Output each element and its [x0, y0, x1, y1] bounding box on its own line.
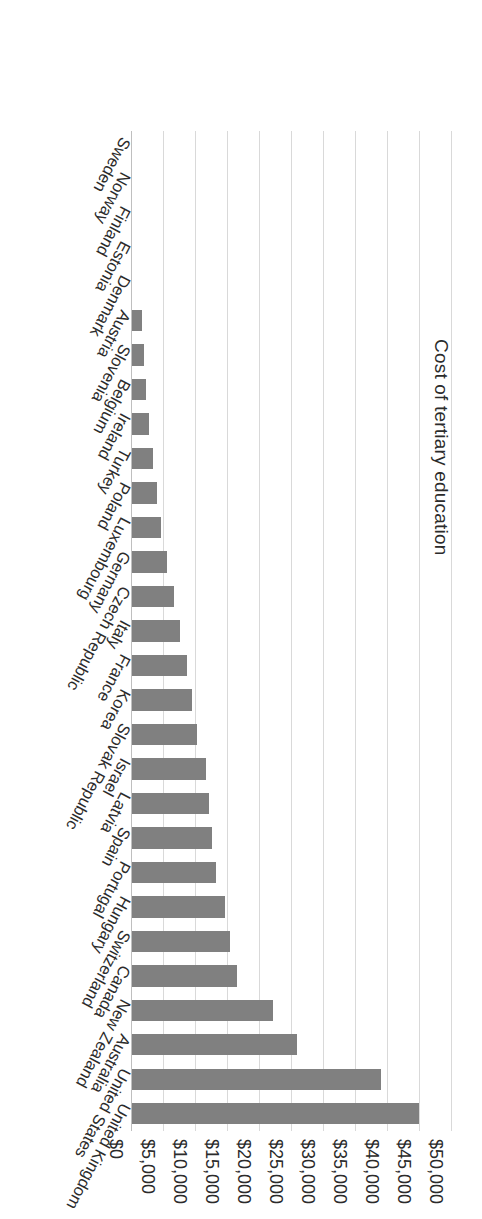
bar[interactable]	[132, 344, 144, 365]
bar-row[interactable]	[132, 344, 452, 365]
bar-row[interactable]	[132, 517, 452, 538]
value-axis-tick-label: $30,000	[297, 1139, 318, 1204]
bar-row[interactable]	[132, 551, 452, 572]
bar[interactable]	[132, 655, 187, 676]
bar-row[interactable]	[132, 862, 452, 883]
value-axis-tick-label: $50,000	[425, 1139, 446, 1204]
bar-row[interactable]	[132, 1103, 452, 1124]
bar-row[interactable]	[132, 620, 452, 641]
bar[interactable]	[132, 310, 142, 331]
bar[interactable]	[132, 862, 216, 883]
bar-row[interactable]	[132, 276, 452, 297]
bar-row[interactable]	[132, 758, 452, 779]
bar-row[interactable]	[132, 965, 452, 986]
bar[interactable]	[132, 965, 237, 986]
value-axis-tick-label: $25,000	[265, 1139, 286, 1204]
bar-row[interactable]	[132, 448, 452, 469]
bar[interactable]	[132, 517, 161, 538]
value-axis-tick-label: $45,000	[393, 1139, 414, 1204]
bar[interactable]	[132, 896, 225, 917]
bar[interactable]	[132, 586, 174, 607]
bar-row[interactable]	[132, 1000, 452, 1021]
bar-row[interactable]	[132, 827, 452, 848]
bar[interactable]	[132, 1103, 419, 1124]
bar-row[interactable]	[132, 586, 452, 607]
bar-chart-figure: Cost of tertiary education $0$5,000$10,0…	[0, 0, 482, 1219]
plot-area	[132, 131, 452, 1131]
bar-row[interactable]	[132, 482, 452, 503]
bar[interactable]	[132, 758, 206, 779]
bar-row[interactable]	[132, 241, 452, 262]
bar[interactable]	[132, 793, 209, 814]
bar[interactable]	[132, 931, 230, 952]
bar[interactable]	[132, 689, 192, 710]
bar-row[interactable]	[132, 172, 452, 193]
value-axis-tick-label: $35,000	[329, 1139, 350, 1204]
bar-row[interactable]	[132, 413, 452, 434]
value-axis-tick-label: $15,000	[201, 1139, 222, 1204]
bar-row[interactable]	[132, 793, 452, 814]
value-axis-tick-label: $5,000	[137, 1139, 158, 1194]
value-axis-tick-label: $20,000	[233, 1139, 254, 1204]
bar[interactable]	[132, 413, 149, 434]
bar-row[interactable]	[132, 310, 452, 331]
bar[interactable]	[132, 1000, 273, 1021]
bar[interactable]	[132, 620, 180, 641]
bar-row[interactable]	[132, 1034, 452, 1055]
bars-layer	[132, 131, 452, 1131]
bar-row[interactable]	[132, 896, 452, 917]
bar-row[interactable]	[132, 207, 452, 228]
bar-row[interactable]	[132, 1069, 452, 1090]
bar[interactable]	[132, 379, 146, 400]
bar-row[interactable]	[132, 655, 452, 676]
bar[interactable]	[132, 724, 197, 745]
value-axis-tick-label: $40,000	[361, 1139, 382, 1204]
value-axis-tick-label: $10,000	[169, 1139, 190, 1204]
bar-row[interactable]	[132, 931, 452, 952]
bar[interactable]	[132, 1034, 297, 1055]
bar-row[interactable]	[132, 379, 452, 400]
category-axis-labels: United KingdomUnited StatesAustraliaNew …	[0, 131, 130, 1131]
bar-row[interactable]	[132, 724, 452, 745]
bar[interactable]	[132, 1069, 381, 1090]
bar[interactable]	[132, 448, 153, 469]
bar-row[interactable]	[132, 138, 452, 159]
bar[interactable]	[132, 827, 212, 848]
rotated-figure-wrapper: Cost of tertiary education $0$5,000$10,0…	[0, 0, 482, 1219]
bar-row[interactable]	[132, 689, 452, 710]
bar[interactable]	[132, 482, 157, 503]
bar[interactable]	[132, 551, 167, 572]
